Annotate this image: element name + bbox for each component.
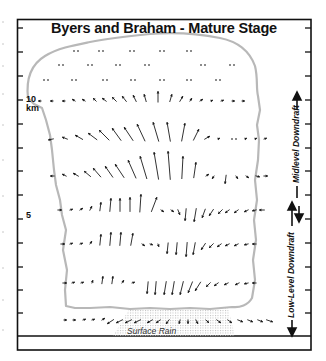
arrowhead-icon [140, 194, 143, 197]
arrowhead-icon [99, 202, 102, 205]
right-axis-ticks [305, 28, 311, 313]
wind-vector-arrow [194, 162, 196, 178]
arrowhead-icon [119, 232, 122, 235]
arrowhead-icon [50, 100, 52, 103]
arrowhead-icon [175, 253, 178, 256]
arrowhead-icon [157, 91, 160, 93]
wind-vector-arrow [151, 197, 157, 212]
arrowhead-icon [254, 138, 257, 141]
arrowhead-icon [233, 100, 235, 103]
arrowhead-icon [244, 138, 247, 141]
wind-vector-arrow [168, 151, 170, 180]
arrowhead-icon [224, 181, 227, 184]
arrowhead-icon [266, 175, 268, 178]
arrowhead-icon [217, 138, 220, 141]
wind-vector-arrow [115, 164, 124, 178]
surface-rain-label: Surface Rain [127, 326, 176, 336]
arrowhead-icon [154, 293, 157, 296]
arrowhead-icon [50, 175, 52, 178]
wind-vector-arrow [124, 127, 133, 141]
diagram-frame [18, 20, 312, 351]
wind-vector-arrow [128, 160, 136, 178]
wind-vector-arrow [182, 123, 185, 141]
arrowhead-icon [166, 252, 169, 255]
arrowhead-icon [74, 319, 76, 322]
diagram-canvas [0, 0, 326, 361]
wind-vector-arrow [153, 122, 159, 142]
diagram-title: Byers and Braham - Mature Stage [17, 20, 311, 36]
lowlevel-downdraft-label: Low-Level Downdraft [286, 232, 296, 318]
arrowhead-icon [259, 209, 261, 212]
arrowhead-icon [38, 100, 40, 103]
wind-vector-field [38, 51, 273, 324]
arrowhead-icon [109, 198, 112, 201]
arrowhead-icon [243, 100, 245, 103]
wind-vector-arrow [154, 152, 159, 180]
arrowhead-icon [252, 282, 254, 285]
axis-label-5: 5 [26, 211, 31, 220]
arrowhead-icon [109, 232, 112, 235]
outer-faint-ticks [2, 22, 4, 330]
wind-vector-arrow [140, 156, 147, 179]
arrowhead-icon [62, 100, 64, 103]
wind-vector-arrow [137, 124, 145, 141]
wind-vector-arrow [167, 122, 170, 142]
arrowhead-icon [185, 255, 188, 258]
arrowhead-icon [65, 319, 67, 322]
arrowhead-icon [146, 292, 149, 295]
arrowhead-icon [182, 156, 185, 159]
wind-vector-arrow [182, 156, 183, 179]
arrowhead-icon [99, 234, 102, 237]
midlevel-downdraft-label: Midlevel Downdraft [291, 105, 301, 183]
axis-label-km: km [26, 104, 39, 113]
arrowhead-icon [210, 100, 213, 103]
wind-vector-arrow [140, 194, 141, 212]
arrowhead-icon [119, 198, 122, 200]
arrowhead-icon [129, 197, 132, 199]
cloud-outline [28, 33, 260, 309]
arrowhead-icon [184, 219, 187, 222]
arrowhead-icon [252, 243, 254, 246]
arrowhead-icon [167, 151, 170, 154]
